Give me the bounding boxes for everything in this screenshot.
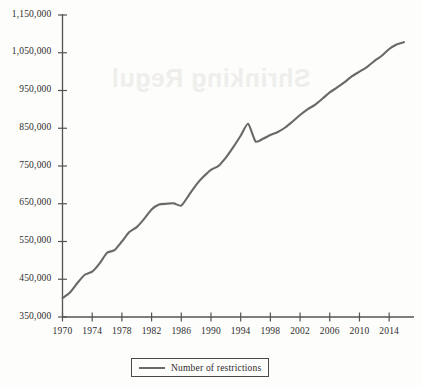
y-tick-label: 650,000 bbox=[0, 197, 52, 207]
data-series-group bbox=[63, 42, 405, 298]
y-tick-label: 350,000 bbox=[0, 311, 52, 321]
y-tick-label: 1,150,000 bbox=[0, 9, 52, 19]
x-tick-label: 2014 bbox=[369, 326, 409, 336]
y-tick-label: 1,050,000 bbox=[0, 46, 52, 56]
y-tick-label: 950,000 bbox=[0, 84, 52, 94]
legend-line-swatch bbox=[139, 367, 165, 369]
axes bbox=[63, 14, 415, 317]
y-tick-label: 550,000 bbox=[0, 235, 52, 245]
series-line-number-of-restrictions bbox=[63, 42, 405, 298]
legend-label: Number of restrictions bbox=[171, 363, 261, 373]
y-tick-label: 750,000 bbox=[0, 160, 52, 170]
y-tick-label: 450,000 bbox=[0, 273, 52, 283]
chart-legend: Number of restrictions bbox=[131, 358, 269, 377]
line-chart-figure: 1,150,0001,050,000950,000850,000750,0006… bbox=[0, 0, 422, 386]
y-tick-label: 850,000 bbox=[0, 122, 52, 132]
